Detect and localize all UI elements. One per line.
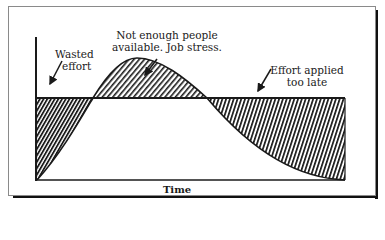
x-axis-label: Time — [152, 184, 202, 196]
late-effort-label: Effort applied too late — [264, 64, 350, 88]
late-effort-line1: Effort applied — [264, 64, 350, 76]
wasted-effort-label: Wasted effort — [55, 48, 94, 72]
late-effort-line2: too late — [264, 76, 350, 88]
wasted-effort-line2: effort — [55, 60, 94, 72]
shortage-line2: available. Job stress. — [112, 41, 222, 53]
shortage-label: Not enough people available. Job stress. — [112, 29, 222, 53]
wasted-effort-line1: Wasted — [55, 48, 94, 60]
shortage-line1: Not enough people — [112, 29, 222, 41]
